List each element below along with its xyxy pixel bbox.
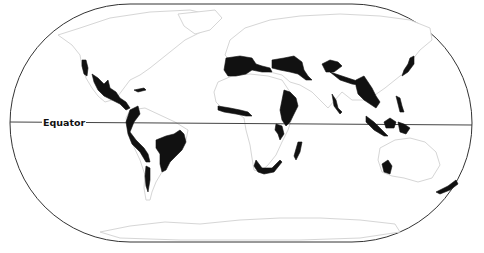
equator-label: Equator xyxy=(42,117,86,128)
